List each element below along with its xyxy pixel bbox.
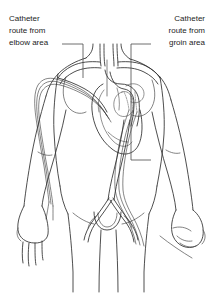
right-shoulder-line: [130, 59, 171, 100]
right-iliac-artery-b: [110, 200, 134, 242]
left-groin-fold: [73, 213, 94, 224]
vascular-system: [58, 44, 160, 242]
left-label-line-1: Catheter: [9, 14, 40, 23]
left-thigh-outer: [68, 214, 73, 292]
torso-right-side: [157, 77, 164, 186]
groin-crease-inner: [98, 213, 117, 227]
right-knuckle-1: [177, 236, 192, 241]
left-hip-line: [60, 186, 68, 214]
torso-left-side: [54, 74, 60, 186]
catheter-groin-tip-in-heart-3: [135, 91, 137, 112]
right-label-line-1: Catheter: [174, 14, 205, 23]
pulmonary-artery: [117, 88, 119, 110]
left-finger-3: [35, 243, 36, 265]
right-label-line-2: route from: [169, 26, 206, 35]
aortic-arch-outer: [105, 70, 139, 126]
left-iliac-artery-b: [88, 200, 112, 242]
catheter-elbow-line-3: [39, 84, 111, 206]
left-iliac-artery: [84, 198, 109, 240]
label-group-left: Catheter route from elbow area: [9, 14, 49, 47]
left-finger-2: [28, 243, 29, 266]
right-label-line-3: groin area: [169, 38, 206, 47]
right-carotid-b: [117, 44, 118, 66]
right-hand-crease: [173, 227, 191, 231]
right-arm-outer: [171, 100, 193, 210]
catheter-route-illustration: Catheter route from elbow area Catheter …: [0, 0, 214, 294]
illustration-container: Catheter route from elbow area Catheter …: [0, 0, 214, 294]
right-elbow-crease: [166, 150, 180, 153]
left-subclavian-lower: [60, 68, 101, 84]
catheter-elbow-tip: [46, 202, 49, 219]
left-finger-4: [42, 241, 43, 260]
label-group-right: Catheter route from groin area: [169, 14, 206, 47]
left-carotid-b: [104, 44, 105, 66]
catheter-groin-tip-in-heart: [124, 92, 129, 110]
right-subclavian-lower: [117, 68, 158, 84]
right-thigh-inner: [116, 230, 118, 292]
right-thigh-outer: [144, 214, 149, 292]
catheter-elbow-route: [35, 78, 111, 220]
left-label-line-3: elbow area: [9, 38, 49, 47]
neck-left-line: [86, 44, 93, 58]
left-hand-outline: [18, 206, 48, 243]
left-thigh-inner: [99, 230, 101, 292]
left-finger-1: [22, 242, 23, 263]
neck-right-line: [121, 44, 130, 59]
left-carotid: [100, 44, 101, 66]
left-label-line-2: route from: [9, 26, 46, 35]
right-hip-line: [149, 186, 157, 214]
right-carotid: [113, 44, 114, 66]
